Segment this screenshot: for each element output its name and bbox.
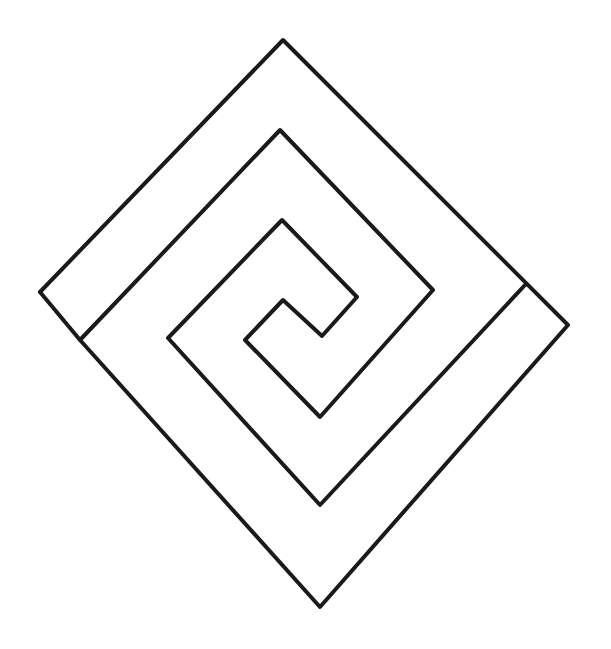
spiral-diagram [0, 0, 611, 649]
background [0, 0, 611, 649]
